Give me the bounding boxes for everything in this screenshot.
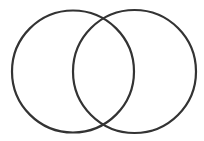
venn-svg xyxy=(0,0,204,141)
venn-diagram xyxy=(0,0,204,141)
